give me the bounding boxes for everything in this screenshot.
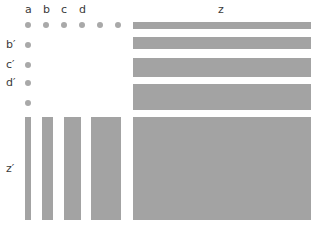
label-a: a — [25, 4, 32, 16]
dot-row-3 — [61, 22, 67, 28]
horizontal-bar-1 — [133, 22, 311, 29]
label-c: c — [61, 4, 67, 16]
dot-row-5 — [97, 22, 103, 28]
dot-row-2 — [43, 22, 49, 28]
dot-col-1 — [25, 42, 31, 48]
label-b-prime: b′ — [6, 39, 15, 51]
vertical-bar-2 — [42, 117, 53, 220]
horizontal-bar-4 — [133, 84, 311, 110]
dot-col-4 — [25, 100, 31, 106]
dot-row-1 — [25, 22, 31, 28]
dot-col-2 — [25, 62, 31, 68]
dot-row-4 — [79, 22, 85, 28]
vertical-bar-3 — [64, 117, 81, 220]
label-d-prime: d′ — [6, 77, 15, 89]
label-d: d — [79, 4, 86, 16]
product-block — [133, 117, 311, 220]
label-b: b — [43, 4, 50, 16]
label-z-prime: z′ — [6, 163, 14, 175]
horizontal-bar-3 — [133, 58, 311, 77]
dot-row-6 — [115, 22, 121, 28]
label-z: z — [218, 4, 224, 16]
label-c-prime: c′ — [6, 59, 15, 71]
dot-col-3 — [25, 80, 31, 86]
horizontal-bar-2 — [133, 37, 311, 49]
vertical-bar-4 — [91, 117, 121, 220]
vertical-bar-1 — [25, 117, 31, 220]
